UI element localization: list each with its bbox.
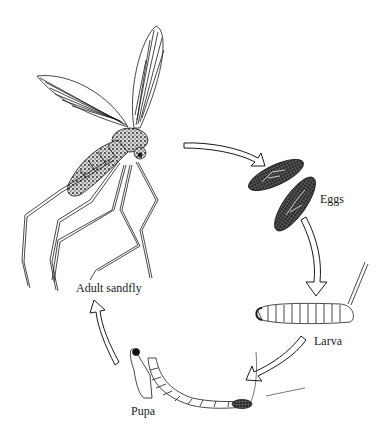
label-eggs: Eggs bbox=[320, 192, 344, 207]
label-larva: Larva bbox=[314, 334, 342, 349]
right-wing-icon bbox=[132, 26, 164, 128]
diagram-artwork bbox=[0, 0, 388, 444]
sandfly-life-cycle-diagram: Adult sandfly Eggs Larva Pupa bbox=[0, 0, 388, 444]
label-pupa: Pupa bbox=[131, 404, 155, 419]
label-adult-sandfly: Adult sandfly bbox=[76, 281, 142, 296]
left-wing-icon bbox=[37, 76, 128, 127]
adult-sandfly-illustration bbox=[22, 26, 164, 291]
pupa-illustration bbox=[130, 349, 256, 409]
arrow-adult-to-eggs bbox=[184, 143, 265, 166]
arrow-eggs-to-larva bbox=[301, 217, 327, 296]
larva-illustration bbox=[256, 262, 368, 324]
arrow-pupa-to-adult bbox=[90, 300, 119, 365]
